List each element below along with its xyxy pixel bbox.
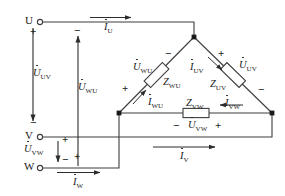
label-voltage-uv-symbol: U — [33, 68, 41, 79]
terminal-node-u — [37, 19, 42, 24]
polarity-minus-wu-top: − — [74, 25, 80, 36]
label-voltage-vw-symbol: U — [24, 144, 32, 155]
polarity-minus-wu-branch: − — [165, 48, 171, 59]
label-voltage-vw-branch: UVW — [188, 120, 207, 133]
conductor-line-u — [43, 22, 194, 37]
label-voltage-vw-subscript: VW — [32, 149, 44, 157]
terminal-node-w — [37, 165, 42, 170]
label-current-vw-branch-symbol: I — [225, 98, 229, 109]
label-current-wu-branch: IWU — [148, 97, 163, 110]
label-voltage-uv-branch: UUV — [239, 60, 257, 73]
label-current-vw-branch: IVW — [225, 98, 240, 111]
label-current-iw-subscript: W — [77, 182, 84, 190]
label-voltage-uv-branch-subscript: UV — [247, 65, 257, 73]
vertex-node-right — [270, 111, 275, 116]
label-current-uv-branch-symbol: I — [190, 62, 194, 73]
label-voltage-uv-subscript: UV — [41, 73, 51, 81]
conductor-line-v — [43, 113, 272, 137]
label-current-vw-branch-subscript: VW — [229, 103, 241, 111]
label-current-iv: IV — [180, 151, 189, 164]
label-current-iw: IW — [73, 177, 83, 190]
label-voltage-wu-branch-symbol: U — [133, 62, 141, 73]
label-current-wu-branch-symbol: I — [148, 97, 152, 108]
terminal-label-v: V — [25, 130, 33, 141]
label-voltage-wu-branch: UWU — [133, 62, 152, 75]
polarity-plus-uv-branch: + — [218, 48, 224, 59]
label-voltage-vw-line: UVW — [24, 144, 43, 157]
label-voltage-wu-line: UWU — [78, 82, 97, 95]
terminal-label-w: W — [24, 161, 34, 172]
polarity-minus-vw-branch: − — [173, 120, 179, 131]
label-current-uv-branch: IUV — [190, 62, 204, 75]
label-impedance-vw-subscript: VW — [192, 103, 204, 111]
terminal-node-v — [37, 134, 42, 139]
label-voltage-wu-branch-subscript: WU — [141, 67, 153, 75]
polarity-plus-vw-top: + — [62, 134, 68, 145]
polarity-minus-uv-bottom: − — [30, 117, 36, 128]
polarity-plus-wu-branch: + — [122, 83, 128, 94]
label-voltage-uv: UUV — [33, 68, 51, 81]
polarity-plus-uv-top: + — [30, 26, 36, 37]
label-current-iu: IU — [104, 22, 113, 35]
label-impedance-uv: ZUV — [210, 79, 226, 92]
label-voltage-wu-symbol: U — [78, 82, 86, 93]
label-impedance-vw: ZVW — [186, 98, 204, 111]
circuit-schematic — [0, 0, 285, 196]
label-voltage-uv-branch-symbol: U — [239, 60, 247, 71]
label-voltage-wu-subscript: WU — [86, 87, 98, 95]
label-impedance-wu: ZWU — [163, 77, 181, 90]
label-voltage-vw-branch-subscript: VW — [196, 125, 208, 133]
vertex-node-left — [117, 111, 122, 116]
vertex-node-top — [192, 35, 197, 40]
label-current-wu-branch-subscript: WU — [152, 102, 164, 110]
conductor-line-w — [43, 113, 119, 168]
polarity-plus-wu-bottom: + — [74, 151, 80, 162]
label-current-iw-symbol: I — [73, 177, 77, 188]
label-impedance-uv-subscript: UV — [216, 84, 226, 92]
label-current-iv-subscript: V — [184, 156, 189, 164]
label-current-iu-subscript: U — [108, 27, 113, 35]
label-current-uv-branch-subscript: UV — [194, 67, 204, 75]
label-current-iv-symbol: I — [180, 151, 184, 162]
label-impedance-wu-subscript: WU — [169, 82, 181, 90]
label-current-iu-symbol: I — [104, 22, 108, 33]
circuit-diagram-root: U V W + − UUV − + UWU + − UVW IU IV IW U… — [0, 0, 285, 196]
polarity-minus-uv-branch: − — [258, 84, 264, 95]
label-voltage-vw-branch-symbol: U — [188, 120, 196, 131]
polarity-minus-vw-bottom: − — [62, 154, 68, 165]
polarity-plus-vw-branch: + — [215, 120, 221, 131]
